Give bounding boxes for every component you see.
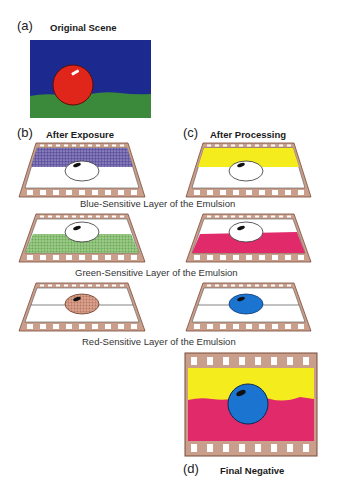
film-b-red <box>19 283 145 331</box>
panel-b-title: After Exposure <box>46 130 114 140</box>
panel-d-title: Final Negative <box>220 466 284 476</box>
panel-d-letter: (d) <box>183 462 199 475</box>
caption-green-layer: Green-Sensitive Layer of the Emulsion <box>75 268 238 278</box>
caption-blue-layer: Blue-Sensitive Layer of the Emulsion <box>80 199 235 209</box>
panel-a-letter: (a) <box>17 19 33 32</box>
original-scene-image <box>30 40 151 118</box>
film-b-blue <box>19 143 145 197</box>
film-b-green <box>19 214 145 262</box>
caption-red-layer: Red-Sensitive Layer of the Emulsion <box>82 337 236 347</box>
film-c-magenta <box>186 214 311 262</box>
panel-c-letter: (c) <box>183 126 198 139</box>
panel-b-letter: (b) <box>17 126 33 139</box>
diagram-canvas <box>0 0 338 489</box>
panel-a-title: Original Scene <box>50 23 117 33</box>
film-c-cyan <box>186 283 311 331</box>
panel-c-title: After Processing <box>210 130 286 140</box>
final-negative-image <box>185 353 317 456</box>
film-c-yellow <box>186 143 311 197</box>
